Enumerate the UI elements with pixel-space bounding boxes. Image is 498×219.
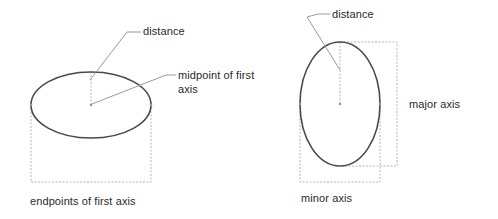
- right-distance-label: distance: [332, 8, 374, 21]
- center-point: [90, 104, 93, 107]
- left-distance-label: distance: [143, 25, 185, 38]
- major-axis-label: major axis: [409, 98, 460, 111]
- minor-axis-dimension-lines: [300, 104, 380, 182]
- midpoint-label-line1: midpoint of first: [178, 69, 254, 82]
- midpoint-leader-line: [92, 75, 176, 104]
- minor-axis-label: minor axis: [301, 192, 352, 205]
- midpoint-label-line2: axis: [178, 83, 198, 96]
- right-figure: [299, 14, 397, 182]
- right-left-endpoint-grip: [299, 103, 302, 106]
- endpoints-label: endpoints of first axis: [30, 195, 136, 208]
- right-right-endpoint-grip: [379, 103, 382, 106]
- endpoints-dimension-lines: [31, 105, 151, 182]
- left-endpoint-grip: [30, 104, 33, 107]
- right-endpoint-grip: [150, 104, 153, 107]
- left-figure: [30, 32, 176, 182]
- right-center-point: [339, 103, 342, 106]
